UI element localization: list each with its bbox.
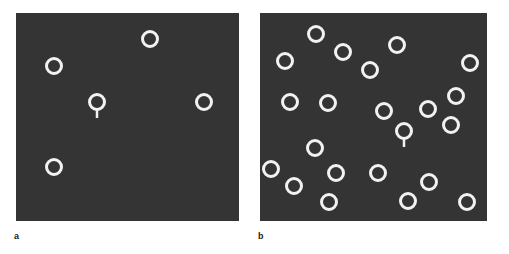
distractor-letter-o [384,32,410,58]
panel-a [16,13,239,221]
distractor-letter-o [316,189,342,215]
distractor-letter-o [330,39,356,65]
distractor-letter-o [303,21,329,47]
target-letter-q [391,118,417,151]
distractor-letter-o [315,90,341,116]
distractor-letter-o [41,53,67,79]
distractor-letter-o [454,189,480,215]
distractor-letter-o [457,50,483,76]
visual-search-figure: a b [0,0,509,254]
distractor-letter-o [395,188,421,214]
distractor-letter-o [438,112,464,138]
distractor-letter-o [323,160,349,186]
distractor-letter-o [191,89,217,115]
distractor-letter-o [277,89,303,115]
panel-b-search-field [260,13,487,221]
distractor-letter-o [41,154,67,180]
panel-a-label: a [14,231,19,241]
distractor-letter-o [365,160,391,186]
distractor-letter-o [272,48,298,74]
target-letter-q [84,89,110,122]
distractor-letter-o [302,135,328,161]
distractor-letter-o [443,83,469,109]
panel-a-search-field [16,13,239,221]
distractor-letter-o [281,173,307,199]
panel-b [260,13,487,221]
panel-b-label: b [258,231,264,241]
distractor-letter-o [357,57,383,83]
distractor-letter-o [137,26,163,52]
